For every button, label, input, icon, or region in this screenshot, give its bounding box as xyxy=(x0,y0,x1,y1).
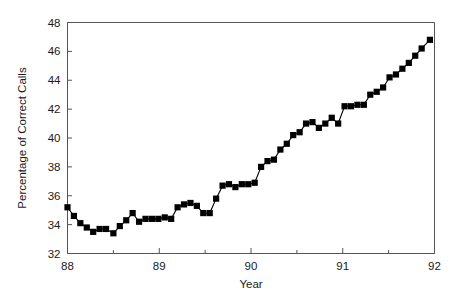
data-point-marker xyxy=(427,37,433,43)
data-point-marker xyxy=(252,180,258,186)
y-tick-label: 34 xyxy=(48,219,61,231)
data-point-marker xyxy=(380,84,386,90)
data-point-marker xyxy=(406,60,412,66)
data-point-marker xyxy=(245,181,251,187)
data-point-marker xyxy=(149,216,155,222)
x-tick-label: 88 xyxy=(61,260,74,272)
data-point-marker xyxy=(97,226,103,232)
data-point-marker xyxy=(117,223,123,229)
data-point-marker xyxy=(367,92,373,98)
data-point-marker xyxy=(386,74,392,80)
y-tick-label: 44 xyxy=(48,74,61,86)
data-point-marker xyxy=(219,183,225,189)
y-tick-label: 48 xyxy=(48,17,61,29)
data-point-marker xyxy=(71,213,77,219)
data-point-marker xyxy=(284,141,290,147)
y-axis-title: Percentage of Correct Calls xyxy=(16,67,28,209)
data-point-marker xyxy=(168,216,174,222)
data-point-marker xyxy=(181,201,187,207)
data-point-marker xyxy=(354,102,360,108)
data-point-marker xyxy=(64,204,70,210)
data-point-marker xyxy=(194,203,200,209)
series-group xyxy=(64,37,433,237)
data-point-marker xyxy=(239,181,245,187)
data-point-marker xyxy=(142,216,148,222)
data-point-marker xyxy=(399,66,405,72)
data-point-marker xyxy=(123,217,129,223)
data-point-marker xyxy=(329,115,335,121)
data-point-marker xyxy=(348,103,354,109)
y-tick-label: 46 xyxy=(48,45,61,57)
data-point-marker xyxy=(77,220,83,226)
y-axis-tick-labels: 323436384042444648 xyxy=(48,17,61,260)
data-point-marker xyxy=(90,229,96,235)
data-point-marker xyxy=(341,103,347,109)
x-axis-tick-labels: 8889909192 xyxy=(61,260,441,272)
x-tick-label: 89 xyxy=(153,260,166,272)
y-tick-label: 42 xyxy=(48,103,61,115)
data-point-marker xyxy=(84,224,90,230)
data-point-marker xyxy=(393,71,399,77)
data-point-marker xyxy=(110,230,116,236)
data-point-marker xyxy=(316,125,322,131)
data-point-marker xyxy=(200,210,206,216)
data-point-marker xyxy=(271,157,277,163)
data-point-marker xyxy=(374,89,380,95)
y-tick-label: 32 xyxy=(48,248,61,260)
series-markers xyxy=(64,37,433,237)
data-point-marker xyxy=(303,120,309,126)
data-point-marker xyxy=(290,132,296,138)
data-point-marker xyxy=(277,146,283,152)
plot-frame xyxy=(68,23,435,254)
data-point-marker xyxy=(226,181,232,187)
data-point-marker xyxy=(103,226,109,232)
y-tick-label: 40 xyxy=(48,132,61,144)
x-tick-label: 91 xyxy=(336,260,349,272)
data-point-marker xyxy=(207,210,213,216)
x-tick-label: 92 xyxy=(428,260,441,272)
data-point-marker xyxy=(162,214,168,220)
x-tick-label: 90 xyxy=(245,260,258,272)
data-point-marker xyxy=(130,210,136,216)
data-point-marker xyxy=(232,184,238,190)
data-point-marker xyxy=(258,164,264,170)
y-tick-label: 38 xyxy=(48,161,61,173)
x-axis-ticks xyxy=(68,248,435,254)
chart-figure: 323436384042444648 8889909192 Year Perce… xyxy=(0,0,464,296)
data-point-marker xyxy=(136,219,142,225)
axis-frame xyxy=(68,23,435,254)
data-point-marker xyxy=(419,45,425,51)
data-point-marker xyxy=(175,204,181,210)
y-tick-label: 36 xyxy=(48,190,61,202)
x-axis-title: Year xyxy=(239,278,262,290)
data-point-marker xyxy=(322,120,328,126)
data-point-marker xyxy=(213,196,219,202)
data-point-marker xyxy=(309,119,315,125)
data-point-marker xyxy=(297,129,303,135)
data-point-marker xyxy=(412,53,418,59)
data-point-marker xyxy=(155,216,161,222)
data-point-marker xyxy=(264,158,270,164)
line-chart: 323436384042444648 8889909192 Year Perce… xyxy=(0,0,464,296)
data-point-marker xyxy=(361,102,367,108)
data-point-marker xyxy=(187,200,193,206)
series-line xyxy=(68,40,430,233)
data-point-marker xyxy=(335,120,341,126)
